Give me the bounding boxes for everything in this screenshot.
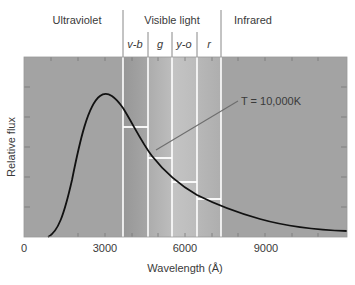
region-label-uv: Ultraviolet [53,14,102,26]
x-tick-9000: 9000 [254,242,278,254]
band-yo-fill [172,57,197,237]
band-label-r: r [207,38,212,50]
y-axis-label: Relative flux [5,117,17,177]
band-label-vb: v-b [127,38,142,50]
x-axis-label: Wavelength (Å) [147,262,222,274]
temperature-annotation: T = 10,000K [241,95,302,107]
x-tick-6000: 6000 [173,242,197,254]
band-vb-fill [123,57,148,237]
region-label-ir: Infrared [234,14,272,26]
band-label-g: g [157,38,164,50]
x-tick-0: 0 [21,242,27,254]
x-tick-3000: 3000 [93,242,117,254]
band-r-fill [197,57,221,237]
region-label-visible: Visible light [144,14,199,26]
band-label-yo: y-o [175,38,191,50]
blackbody-chart: Ultraviolet Visible light Infrared v-b g… [0,0,355,285]
